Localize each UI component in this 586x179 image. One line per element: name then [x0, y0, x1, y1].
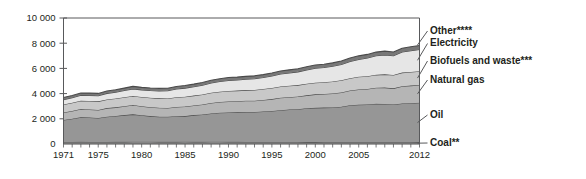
legend-label: Other****: [430, 25, 472, 36]
chart-canvas: 02 0004 0006 0008 00010 000 197119751980…: [0, 0, 586, 179]
legend-label: Natural gas: [430, 74, 485, 85]
legend-label: Coal**: [430, 137, 460, 148]
y-tick-label: 10 000: [26, 12, 55, 23]
chart-legend: Other****ElectricityBiofuels and waste**…: [418, 25, 533, 148]
stacked-area-chart: 02 0004 0006 0008 00010 000 197119751980…: [0, 0, 586, 179]
y-tick-label: 0: [50, 138, 55, 149]
x-axis-ticks: 197119751980198519901995200020052012: [53, 144, 430, 160]
x-tick-label: 1975: [88, 149, 109, 160]
y-tick-label: 2 000: [32, 113, 56, 124]
y-tick-label: 4 000: [32, 88, 56, 99]
x-tick-label: 1985: [174, 149, 195, 160]
y-tick-label: 8 000: [32, 38, 56, 49]
x-tick-label: 1990: [218, 149, 239, 160]
area-bands: [64, 46, 420, 144]
x-tick-label: 2012: [409, 149, 430, 160]
legend-label: Electricity: [430, 37, 478, 48]
x-tick-label: 2000: [305, 149, 326, 160]
legend-label: Biofuels and waste***: [430, 55, 532, 66]
y-axis-ticks: 02 0004 0006 0008 00010 000: [26, 12, 67, 149]
x-tick-label: 1995: [261, 149, 282, 160]
x-tick-label: 1971: [53, 149, 74, 160]
x-tick-label: 1980: [131, 149, 152, 160]
y-tick-label: 6 000: [32, 63, 56, 74]
legend-label: Oil: [430, 109, 444, 120]
x-tick-label: 2005: [348, 149, 369, 160]
